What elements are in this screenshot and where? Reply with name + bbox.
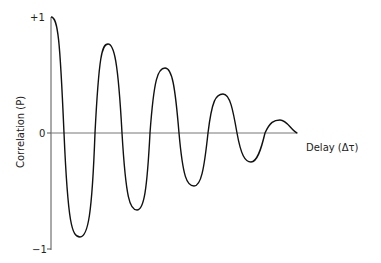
correlation-chart: +1 0 −1 Correlation (P) Delay (Δτ) xyxy=(0,0,381,263)
y-tick-plus-one: +1 xyxy=(30,12,45,23)
y-axis-title: Correlation (P) xyxy=(15,96,26,168)
correlation-curve xyxy=(51,17,297,237)
y-tick-zero: 0 xyxy=(39,128,45,139)
y-tick-minus-one: −1 xyxy=(32,244,47,255)
x-axis-title: Delay (Δτ) xyxy=(306,142,359,153)
